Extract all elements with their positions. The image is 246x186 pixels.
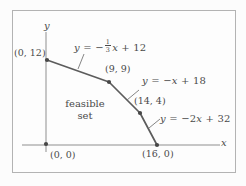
point-label-0-0: (0, 0): [50, 149, 76, 160]
y-axis-label: y: [44, 20, 50, 31]
x-axis-label: x: [221, 137, 227, 148]
point-label-9-9: (9, 9): [105, 63, 131, 74]
point-label-14-4: (14, 4): [134, 95, 166, 106]
point-label-16-0: (16, 0): [142, 148, 174, 159]
equation-edge2: y = −x + 18: [142, 74, 206, 86]
figure-screenshot: y x (0, 12) (9, 9) (14, 4) (16, 0) (0, 0…: [0, 0, 246, 186]
equation-edge3: y = −2x + 32: [160, 112, 231, 124]
region-label: feasible set: [58, 98, 112, 122]
plot-canvas: [0, 0, 246, 186]
equation-edge1: y = −13x + 12: [74, 39, 146, 55]
region-label-line1: feasible: [58, 98, 112, 110]
region-label-line2: set: [58, 110, 112, 122]
point-label-0-12: (0, 12): [14, 47, 46, 58]
